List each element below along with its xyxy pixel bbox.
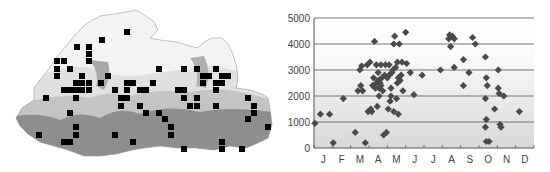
occurrence-marker [219,80,225,86]
occurrence-marker [213,87,219,93]
occurrence-marker [73,124,79,130]
y-tick-labels: 010002000300040005000 [288,13,311,154]
occurrence-marker [67,139,73,145]
altitude-month-scatter: 010002000300040005000 JFMAMJJASOND [280,0,550,172]
bhutan-relief [0,0,280,172]
occurrence-marker [219,73,225,79]
occurrence-marker [150,80,156,86]
x-tick-label: O [484,154,492,165]
occurrence-marker [245,116,251,122]
occurrence-marker [73,87,79,93]
occurrence-marker [194,95,200,101]
y-tick-label: 3000 [288,65,311,76]
occurrence-marker [79,87,85,93]
occurrence-marker [112,87,118,93]
occurrence-marker [124,29,130,35]
occurrence-marker [79,80,85,86]
occurrence-marker [175,87,181,93]
occurrence-marker [61,58,67,64]
occurrence-marker [118,103,124,109]
occurrence-marker [54,73,60,79]
occurrence-marker [137,87,143,93]
occurrence-marker [86,58,92,64]
x-tick-label: J [412,154,417,165]
y-tick-label: 2000 [288,91,311,102]
occurrence-marker [67,87,73,93]
occurrence-marker [213,66,219,72]
occurrence-marker [194,66,200,72]
occurrence-marker [219,146,225,152]
occurrence-marker [200,80,206,86]
y-tick-label: 4000 [288,39,311,50]
occurrence-marker [265,124,271,130]
occurrence-marker [137,103,143,109]
occurrence-marker [206,73,212,79]
occurrence-marker [79,73,85,79]
occurrence-marker [73,95,79,101]
occurrence-marker [124,80,130,86]
occurrence-marker [130,139,136,145]
occurrence-marker [181,95,187,101]
y-tick-label: 0 [304,143,310,154]
occurrence-marker [156,110,162,116]
occurrence-marker [219,139,225,145]
occurrence-marker [143,87,149,93]
x-tick-label: M [392,154,400,165]
occurrence-marker [36,132,42,138]
occurrence-marker [181,66,187,72]
occurrence-marker [130,80,136,86]
occurrence-marker [99,37,105,43]
occurrence-marker [245,95,251,101]
x-tick-label: J [431,154,436,165]
x-tick-label: A [448,154,455,165]
occurrence-marker [118,95,124,101]
x-tick-label: D [521,154,528,165]
occurrence-marker [225,73,231,79]
occurrence-marker [156,66,162,72]
occurrence-marker [213,103,219,109]
occurrence-marker [54,66,60,72]
occurrence-marker [86,51,92,57]
occurrence-marker [251,103,257,109]
x-tick-label: M [356,154,364,165]
occurrence-marker [112,132,118,138]
x-tick-label: A [375,154,382,165]
occurrence-marker [124,87,130,93]
occurrence-marker [43,95,49,101]
occurrence-marker [105,73,111,79]
occurrence-marker [200,73,206,79]
y-tick-label: 1000 [288,117,311,128]
occurrence-marker [162,116,168,122]
occurrence-marker [181,87,187,93]
occurrence-marker [187,103,193,109]
occurrence-marker [98,80,104,86]
occurrence-marker [168,132,174,138]
occurrence-marker [143,110,149,116]
x-tick-label: S [466,154,473,165]
occurrence-marker [67,66,73,72]
occurrence-marker [86,80,92,86]
occurrence-marker [168,124,174,130]
occurrence-marker [239,146,245,152]
occurrence-marker [73,132,79,138]
occurrence-marker [86,87,92,93]
occurrence-marker [54,58,60,64]
occurrence-marker [67,110,73,116]
occurrence-marker [194,103,200,109]
x-tick-label: N [503,154,510,165]
distribution-map [0,0,280,172]
occurrence-marker [73,80,79,86]
occurrence-marker [61,87,67,93]
x-tick-label: F [338,154,344,165]
occurrence-marker [61,139,67,145]
y-tick-label: 5000 [288,13,311,24]
occurrence-marker [213,80,219,86]
occurrence-marker [74,44,80,50]
occurrence-marker [251,110,257,116]
x-tick-label: J [321,154,326,165]
occurrence-marker [124,95,130,101]
occurrence-marker [181,146,187,152]
occurrence-marker [86,44,92,50]
